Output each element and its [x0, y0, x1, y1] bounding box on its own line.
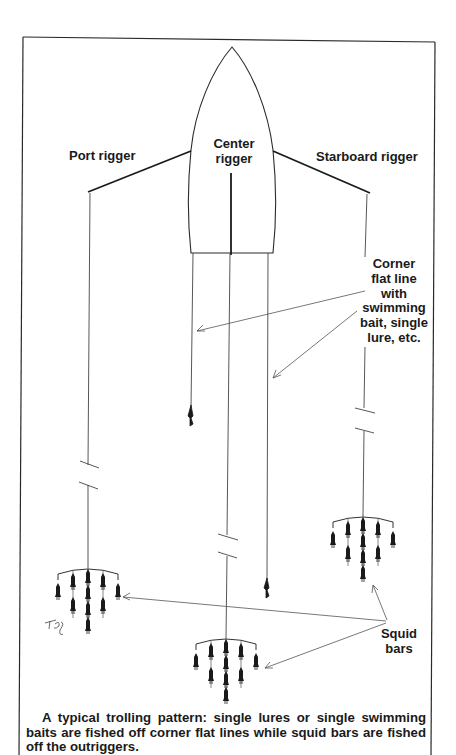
corner-label-line: Corner [358, 257, 430, 272]
starboard-rigger-line [355, 194, 375, 516]
center-rigger-line [218, 253, 238, 638]
single-lure-right [264, 578, 269, 598]
squid-bar-port [55, 568, 121, 634]
squid-bar-starboard [330, 516, 396, 582]
squid-bars-label: Squid bars [374, 627, 424, 656]
figure-caption: A typical trolling pattern: single lures… [26, 711, 426, 755]
port-rigger-label: Port rigger [69, 148, 135, 163]
corner-label-line: lure, etc. [358, 331, 430, 346]
squid-label-line: Squid [374, 627, 424, 642]
center-rigger-label: Center rigger [212, 136, 256, 166]
corner-flat-line-label: Corner flat line with swimming bait, sin… [358, 257, 430, 346]
artist-signature [45, 620, 63, 635]
corner-label-line: with [358, 287, 430, 302]
starboard-rigger-label: Starboard rigger [316, 149, 418, 164]
corner-label-line: swimming [358, 301, 430, 316]
center-rigger-label-line2: rigger [212, 151, 256, 166]
center-rigger-label-line1: Center [212, 136, 256, 151]
corner-label-line: flat line [358, 272, 430, 287]
trolling-pattern-figure: Port rigger Center rigger Starboard rigg… [0, 0, 456, 755]
corner-label-line: bait, single [358, 316, 430, 331]
port-rigger-line [79, 193, 99, 568]
single-lure-left [188, 405, 193, 426]
corner-flat-line-pointers [197, 291, 365, 378]
squid-bar-center [193, 638, 259, 704]
squid-label-line: bars [374, 642, 424, 657]
